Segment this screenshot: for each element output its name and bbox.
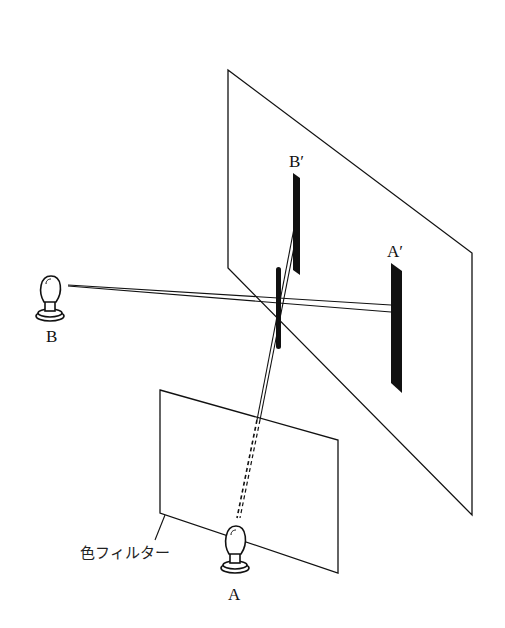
label-shadow-b-prime: B′ <box>289 152 304 171</box>
rays-from-b <box>68 285 391 312</box>
light-bulb-b-icon <box>36 276 64 321</box>
label-color-filter: 色フィルター <box>80 544 170 562</box>
filter-leader-line <box>155 515 165 540</box>
label-shadow-a-prime: A′ <box>387 242 403 261</box>
projection-screen <box>228 70 472 515</box>
color-filter-panel <box>160 390 338 573</box>
rays-from-a <box>237 218 297 518</box>
diagram-canvas: B A B′ A′ 色フィルター <box>0 0 505 628</box>
shadow-a-prime <box>391 263 402 393</box>
shadow-b-prime <box>293 173 300 275</box>
label-source-b: B <box>46 327 57 346</box>
label-source-a: A <box>228 585 241 604</box>
light-bulb-a-icon <box>221 526 249 573</box>
